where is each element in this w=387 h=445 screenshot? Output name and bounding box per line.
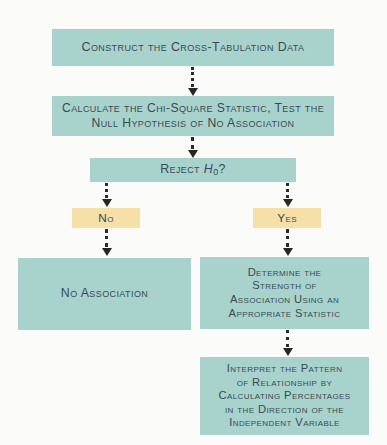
node-no-association-label: No Association [22, 286, 187, 301]
node-branch-no: No [72, 208, 140, 228]
node-branch-yes: Yes [253, 208, 321, 228]
node-no-association: No Association [18, 258, 191, 330]
node-branch-yes-label: Yes [257, 211, 317, 225]
arrowhead-icon [188, 88, 198, 96]
arrowhead-icon [102, 248, 112, 256]
connector-decision-to-yes [285, 183, 290, 207]
arrowhead-icon [283, 199, 293, 207]
connector-determine-to-interpret [285, 330, 290, 356]
node-interpret-pattern: Interpret the Pattern of Relationship by… [200, 357, 369, 435]
node-branch-no-label: No [76, 211, 136, 225]
node-calculate-label: Calculate the Chi-Square Statistic, Test… [56, 101, 330, 131]
decision-prefix: Reject [160, 162, 204, 176]
decision-symbol: H [204, 162, 213, 176]
flowchart-diagram: Construct the Cross-Tabulation Data Calc… [0, 0, 387, 445]
connector-no-to-no-association [104, 229, 109, 256]
node-determine-label: Determine the Strength of Association Us… [204, 266, 365, 321]
connector-calculate-to-decision [190, 137, 195, 158]
node-calculate-chi-square: Calculate the Chi-Square Statistic, Test… [52, 96, 334, 136]
node-determine-strength: Determine the Strength of Association Us… [200, 257, 369, 329]
connector-yes-to-determine [285, 229, 290, 256]
node-decision-reject-null: Reject H0? [90, 158, 296, 182]
connector-dotted-line [286, 330, 289, 347]
arrowhead-icon [283, 248, 293, 256]
connector-dotted-line [191, 137, 194, 149]
node-construct-label: Construct the Cross-Tabulation Data [56, 40, 330, 55]
arrowhead-icon [102, 199, 112, 207]
connector-dotted-line [286, 183, 289, 198]
connector-decision-to-no [104, 183, 109, 207]
node-interpret-label: Interpret the Pattern of Relationship by… [204, 362, 365, 430]
decision-suffix: ? [219, 162, 226, 176]
connector-construct-to-calculate [190, 67, 195, 96]
connector-dotted-line [286, 229, 289, 247]
connector-dotted-line [105, 229, 108, 247]
arrowhead-icon [188, 150, 198, 158]
node-construct-cross-tabulation: Construct the Cross-Tabulation Data [52, 29, 334, 66]
node-decision-label: Reject H0? [94, 162, 292, 178]
arrowhead-icon [283, 348, 293, 356]
connector-dotted-line [105, 183, 108, 198]
connector-dotted-line [191, 67, 194, 87]
